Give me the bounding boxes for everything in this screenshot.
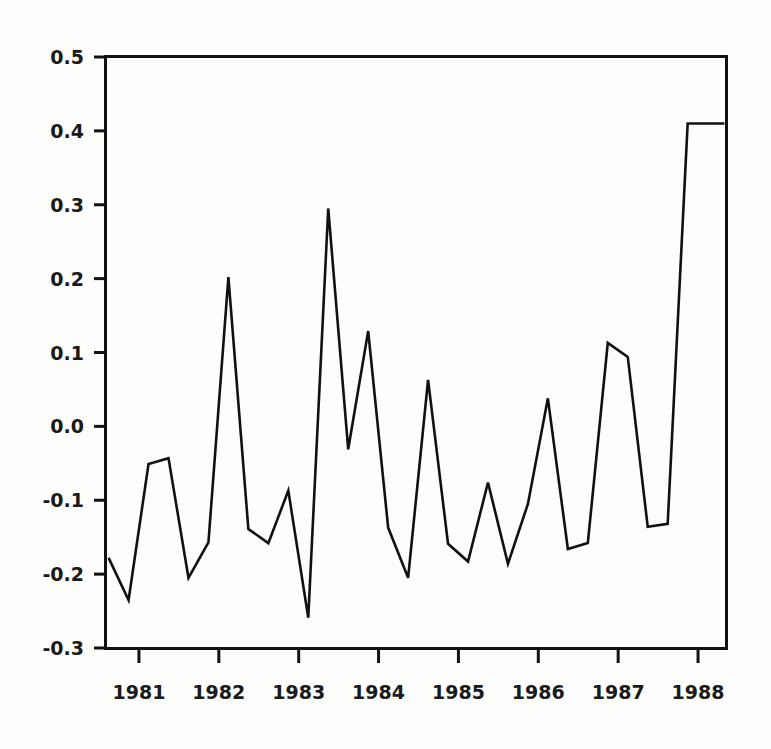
y-tick-label: 0.5 — [50, 46, 84, 68]
line-chart: 0.50.40.30.20.10.0-0.1-0.2-0.3 198119821… — [0, 0, 771, 749]
x-axis-tick-labels: 19811982198319841985198619871988 — [113, 681, 725, 703]
x-tick-label: 1982 — [192, 681, 245, 703]
x-tick-label: 1987 — [592, 681, 645, 703]
y-tick-label: -0.3 — [42, 637, 84, 659]
figure-canvas: 0.50.40.30.20.10.0-0.1-0.2-0.3 198119821… — [0, 0, 771, 749]
y-tick-label: 0.2 — [50, 268, 84, 290]
y-tick-label: 0.3 — [50, 194, 84, 216]
y-tick-label: 0.0 — [50, 415, 84, 437]
y-axis-tick-labels: 0.50.40.30.20.10.0-0.1-0.2-0.3 — [42, 46, 84, 659]
x-axis-ticks — [139, 648, 698, 663]
x-tick-label: 1988 — [672, 681, 725, 703]
data-series-line — [109, 123, 725, 617]
y-tick-label: -0.1 — [42, 489, 84, 511]
x-tick-label: 1981 — [113, 681, 166, 703]
x-tick-label: 1984 — [352, 681, 405, 703]
x-tick-label: 1983 — [272, 681, 325, 703]
y-tick-label: 0.4 — [50, 120, 84, 142]
y-tick-label: -0.2 — [42, 563, 84, 585]
y-tick-label: 0.1 — [50, 342, 84, 364]
x-tick-label: 1986 — [512, 681, 565, 703]
x-tick-label: 1985 — [432, 681, 485, 703]
